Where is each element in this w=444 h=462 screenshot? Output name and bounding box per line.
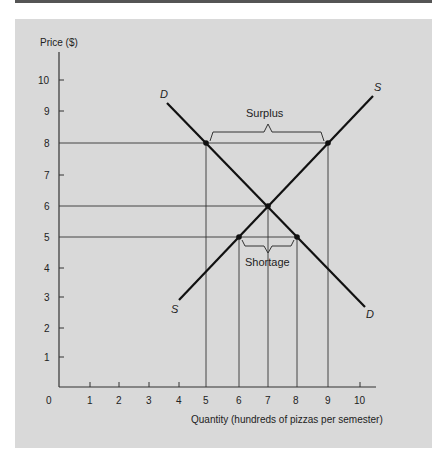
supply-demand-chart: Price ($) Quantity (hundreds of pizzas p… (0, 0, 444, 462)
demand-label-top: D (160, 88, 168, 100)
supply-label-top: S (374, 81, 382, 93)
demand-label-bottom: D (366, 308, 374, 320)
svg-text:10: 10 (38, 75, 50, 86)
svg-text:5: 5 (44, 232, 50, 243)
svg-text:8: 8 (44, 138, 50, 149)
supply-label-bottom: S (171, 303, 179, 315)
svg-text:10: 10 (354, 395, 366, 406)
svg-text:7: 7 (44, 170, 50, 181)
x-ticks (90, 382, 360, 387)
svg-text:5: 5 (203, 395, 209, 406)
svg-text:1: 1 (87, 395, 93, 406)
x-axis-title: Quantity (hundreds of pizzas per semeste… (191, 414, 383, 425)
svg-text:4: 4 (44, 263, 50, 274)
y-axis-title: Price ($) (40, 37, 78, 48)
svg-text:3: 3 (146, 395, 152, 406)
svg-text:6: 6 (236, 395, 242, 406)
surplus-brace (210, 124, 324, 141)
surplus-label: Surplus (246, 107, 284, 119)
svg-text:1: 1 (44, 352, 50, 363)
svg-text:3: 3 (44, 292, 50, 303)
svg-text:9: 9 (44, 106, 50, 117)
svg-text:2: 2 (44, 323, 50, 334)
y-tick-labels: 1 2 3 4 5 6 7 8 9 10 (38, 75, 50, 363)
svg-text:2: 2 (116, 395, 122, 406)
svg-text:9: 9 (325, 395, 331, 406)
svg-text:8: 8 (293, 395, 299, 406)
svg-text:7: 7 (265, 395, 271, 406)
data-points (203, 140, 331, 240)
svg-text:6: 6 (44, 201, 50, 212)
svg-text:4: 4 (176, 395, 182, 406)
supply-curve (179, 96, 373, 300)
y-ticks (59, 80, 64, 357)
origin-label: 0 (46, 395, 52, 406)
x-tick-labels: 1 2 3 4 5 6 7 8 9 10 (87, 395, 366, 406)
shortage-label: Shortage (245, 256, 290, 268)
